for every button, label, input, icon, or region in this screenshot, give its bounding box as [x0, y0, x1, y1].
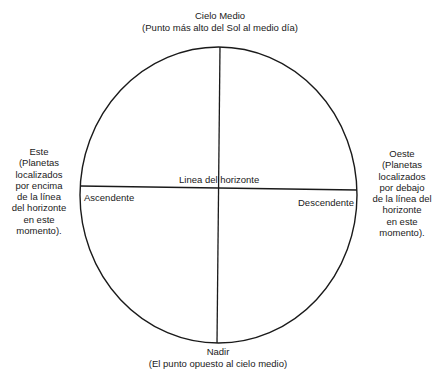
- descendant-label: Descendente: [298, 197, 354, 208]
- horizon-label: Linea del horizonte: [179, 174, 259, 185]
- midheaven-label: Cielo Medio (Punto más alto del Sol al m…: [120, 10, 320, 33]
- meridian-line: [217, 47, 220, 343]
- ascendant-label: Ascendente: [84, 192, 134, 203]
- west-label: Oeste (Planetas localizados por debajo d…: [360, 148, 444, 238]
- nadir-subtitle: (El punto opuesto al cielo medio): [118, 358, 318, 370]
- midheaven-subtitle: (Punto más alto del Sol al medio día): [120, 22, 320, 34]
- nadir-title: Nadir: [118, 346, 318, 358]
- east-label: Este (Planetas localizados por encima de…: [0, 146, 78, 236]
- midheaven-title: Cielo Medio: [120, 10, 320, 22]
- nadir-label: Nadir (El punto opuesto al cielo medio): [118, 346, 318, 369]
